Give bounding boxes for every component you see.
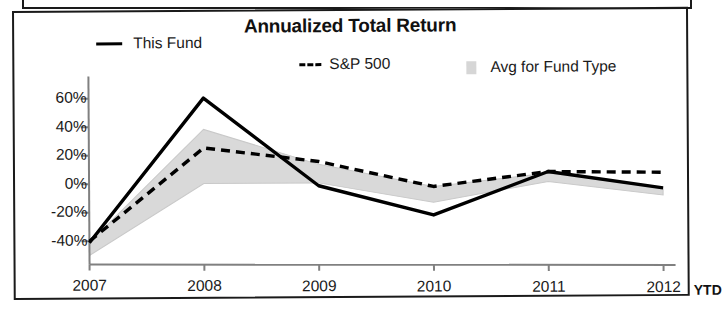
x-axis-tick-label: 2011 [532, 277, 565, 295]
annualized-total-return-chart-panel: Annualized Total Return This Fund S&P 50… [12, 7, 690, 300]
y-axis-tick-label: 0% [25, 174, 87, 192]
y-axis-tick-label: -20% [25, 203, 87, 221]
x-axis-labels: YTD 200720082009201020112012 [16, 261, 692, 301]
y-axis-tick-label: 60% [24, 89, 86, 107]
chart-canvas [14, 9, 692, 302]
x-axis-tick-label: 2009 [302, 277, 337, 295]
x-axis-tick-label: 2007 [72, 276, 107, 294]
y-axis-labels: 60%40%20%0%-20%-40% [20, 13, 88, 302]
x-axis-tick-label: 2010 [417, 277, 452, 295]
y-axis-tick-label: -40% [25, 231, 87, 249]
y-axis-tick-label: 20% [25, 146, 87, 164]
avg-fund-type-band [89, 127, 664, 256]
y-axis-tick-label: 40% [25, 117, 87, 135]
x-axis-tick-label: 2012 [646, 277, 681, 295]
plot-area: 60%40%20%0%-20%-40% YTD 2007200820092010… [14, 9, 692, 302]
x-axis-tick-label: 2008 [187, 277, 222, 295]
x-axis-ytd-note: YTD [694, 281, 722, 297]
